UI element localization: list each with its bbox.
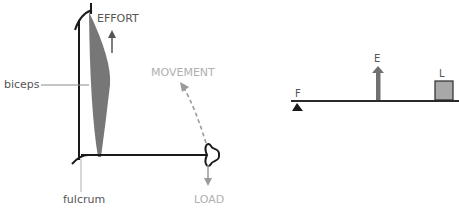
effort-e-label: E [374, 53, 380, 65]
biceps-muscle [89, 12, 110, 157]
arm-diagram [41, 3, 219, 192]
effort-arrow-shaft-right [376, 72, 381, 100]
movement-label: MOVEMENT [151, 67, 215, 79]
lever-diagram-canvas [0, 0, 459, 214]
fulcrum-label: fulcrum [63, 194, 105, 206]
load-arrow-icon [204, 178, 212, 186]
hand-icon [206, 144, 220, 166]
effort-label: EFFORT [97, 13, 139, 25]
load-l-label: L [439, 68, 445, 80]
load-label: LOAD [194, 194, 224, 206]
effort-arrow-icon [108, 30, 116, 38]
load-box [435, 81, 453, 100]
movement-arrow-path [184, 88, 206, 143]
biceps-label: biceps [4, 79, 40, 91]
fulcrum-f-label: F [295, 88, 301, 100]
fulcrum-triangle-icon [292, 103, 303, 111]
effort-arrow-up-icon [372, 66, 384, 73]
lever-schematic [291, 66, 459, 111]
